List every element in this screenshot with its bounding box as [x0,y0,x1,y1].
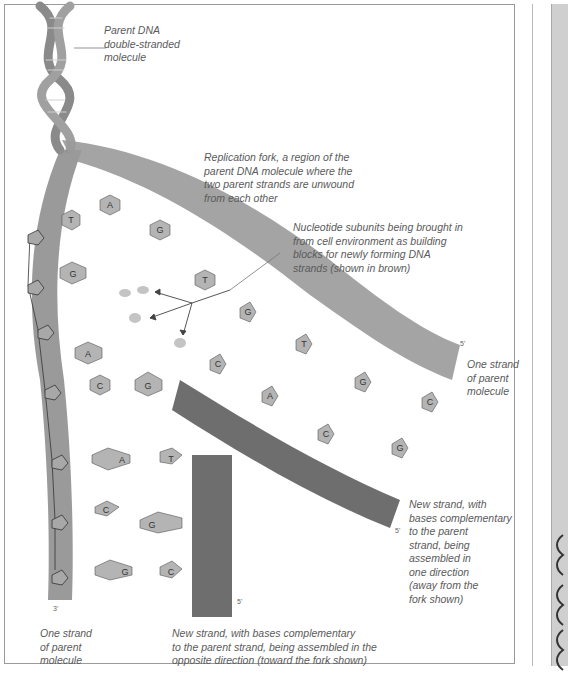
base-label: G [121,567,128,577]
base-label: G [144,381,151,391]
base-label: C [323,429,330,439]
base-label: A [119,455,125,465]
parent-double-helix [40,6,71,150]
strand-end-5prime-upper: 5' [460,340,465,347]
base-label: C [215,359,222,369]
base-label: G [156,225,163,235]
left-bases [60,195,215,396]
strand-end-3prime: 3' [53,605,58,612]
base-label: A [267,391,273,401]
leader-line-nucleotides [230,253,280,290]
label-new-strand-bottom: New strand, with bases complementary to … [172,627,377,668]
base-label: C [427,397,434,407]
base-label: G [69,269,76,279]
base-label: G [148,520,155,530]
label-parent-strand-right: One strand of parent molecule [467,358,519,399]
base-label: C [168,567,175,577]
base-label: G [244,307,251,317]
side-helix-glyphs [557,535,563,670]
label-parent-strand-left: One strand of parent molecule [40,627,92,668]
base-label: T [68,215,74,225]
new-strand-vertical [192,455,232,617]
label-replication-fork: Replication fork, a region of the parent… [204,151,354,205]
base-label: C [97,381,104,391]
base-label: T [301,339,307,349]
incoming-nucleotides [119,286,230,348]
base-label: A [85,349,91,359]
base-label: G [396,443,403,453]
label-new-strand-right: New strand, with bases complementary to … [409,498,512,606]
label-parent-dna: Parent DNA double-stranded molecule [104,24,180,65]
strand-end-5prime-lower: 5' [395,527,400,534]
base-label: A [107,200,113,210]
base-label: T [202,275,208,285]
base-label: G [359,377,366,387]
base-label: C [103,505,110,515]
label-nucleotide-subunits: Nucleotide subunits being brought in fro… [293,221,463,275]
strand-end-5prime-vertical: 5' [237,598,242,605]
base-label: T [168,454,174,464]
